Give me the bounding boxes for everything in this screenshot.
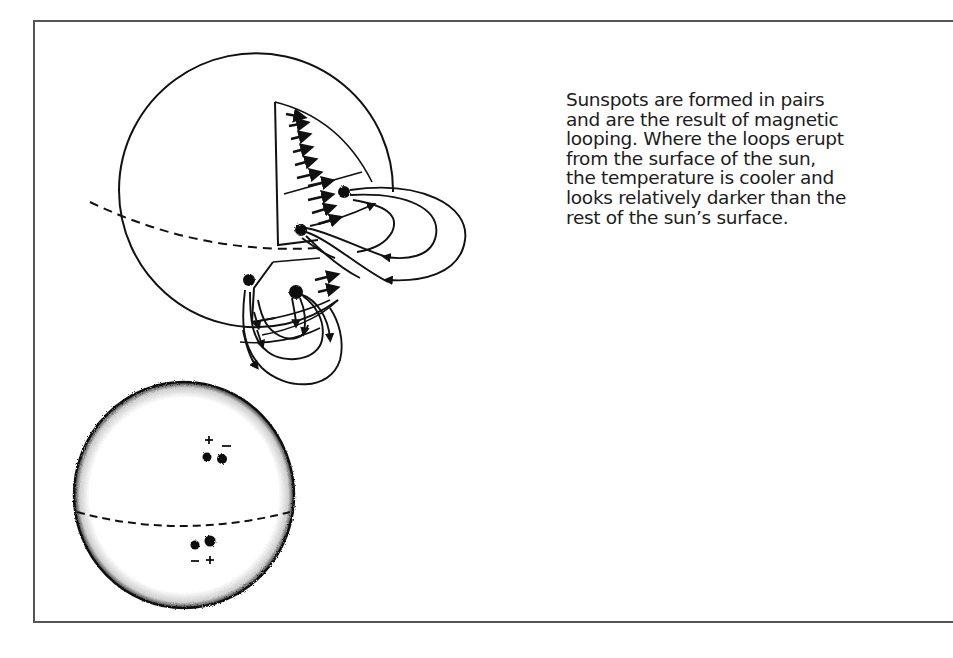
caption-text: Sunspots are formed in pairs and are the… xyxy=(566,90,926,227)
caption-line: Sunspots are formed in pairs xyxy=(566,90,926,110)
cutaway-sun xyxy=(90,53,465,384)
surface-sun xyxy=(74,382,294,608)
caption-line: and are the result of magnetic xyxy=(566,110,926,130)
caption-line: from the surface of the sun, xyxy=(566,149,926,169)
magnetic-loops-lower xyxy=(243,290,342,384)
caption-line: the temperature is cooler and xyxy=(566,168,926,188)
cutaway-wedge-lower xyxy=(252,262,275,322)
magnetic-loops-right xyxy=(302,188,465,282)
rotation-arrows xyxy=(286,114,338,292)
sun-disk xyxy=(74,382,294,608)
caption-line: looks relatively darker than the xyxy=(566,188,926,208)
caption-line: rest of the sun’s surface. xyxy=(566,208,926,228)
caption-line: looping. Where the loops erupt xyxy=(566,129,926,149)
